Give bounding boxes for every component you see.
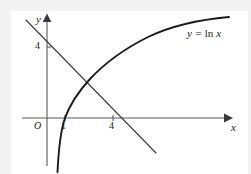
y-axis-label: y bbox=[36, 14, 41, 25]
log-curve-graph bbox=[58, 17, 230, 172]
straight-line-graph bbox=[26, 20, 156, 153]
x-tick-label-1: 1 bbox=[61, 121, 66, 131]
y-axis-arrow-icon bbox=[43, 14, 52, 23]
x-tick-label-4: 4 bbox=[109, 121, 114, 131]
figure-screenshot: y x O 1 4 4 y = ln x bbox=[0, 0, 251, 174]
curve-equation-label: y = ln x bbox=[187, 28, 221, 39]
equation-lhs: y = bbox=[187, 27, 205, 39]
x-axis-label: x bbox=[231, 122, 236, 133]
origin-label: O bbox=[34, 121, 41, 131]
equation-argument: x bbox=[213, 27, 221, 39]
y-tick-label-4: 4 bbox=[35, 41, 40, 51]
